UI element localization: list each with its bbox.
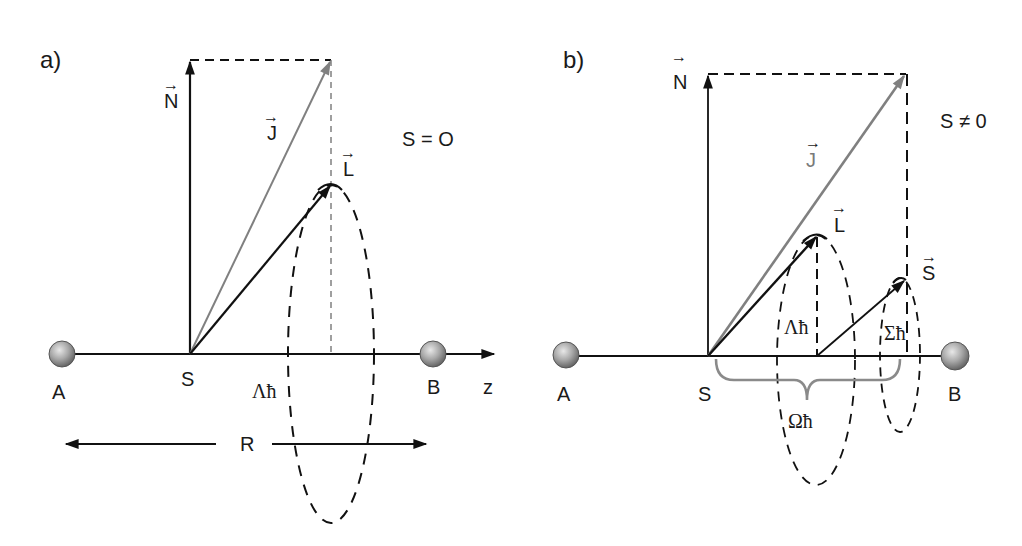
atom-b-right — [420, 341, 446, 367]
panel-b: b) A S B Λħ Σħ Ωħ S ≠ 0 — [553, 46, 987, 485]
omega-hbar-label-b: Ωħ — [788, 410, 813, 432]
j-vector-b — [708, 76, 904, 356]
atom-a-left-b — [553, 342, 579, 368]
panel-b-label: b) — [563, 46, 584, 73]
sigma-hbar-label-b: Σħ — [884, 322, 906, 344]
condition-label-b: S ≠ 0 — [940, 110, 987, 132]
l-vector-label-b: L — [834, 214, 845, 236]
z-axis-label: z — [483, 376, 493, 398]
panel-a: a) A S Λħ B z R S = O → N → J — [40, 46, 494, 523]
atom-b-label-a: B — [427, 376, 440, 398]
condition-label-a: S = O — [402, 128, 454, 150]
n-arrow-glyph-b: → — [671, 48, 687, 65]
atom-a-label-a: A — [52, 381, 66, 403]
omega-brace — [716, 359, 900, 400]
lambda-hbar-label-a: Λħ — [252, 380, 277, 402]
n-vector-label-b: N — [673, 71, 687, 93]
j-vector-a — [190, 62, 330, 354]
lambda-hbar-label-b: Λħ — [784, 316, 809, 338]
atom-b-label-b: B — [948, 383, 961, 405]
r-distance-label: R — [240, 433, 254, 455]
j-vector-label-b: J — [806, 149, 816, 171]
n-vector-label-a: N — [164, 90, 178, 112]
s-vector-b — [817, 281, 904, 356]
panel-a-label: a) — [40, 46, 61, 73]
j-vector-label-a: J — [267, 122, 277, 144]
center-label-a: S — [181, 368, 194, 390]
atom-a-left — [49, 341, 75, 367]
s-vector-label-b: S — [922, 262, 935, 284]
center-label-b: S — [698, 383, 711, 405]
l-vector-label-a: L — [343, 158, 354, 180]
atom-a-label-b: A — [557, 383, 571, 405]
precession-arrow-s-b — [893, 278, 906, 283]
hunds-coupling-diagram: a) A S Λħ B z R S = O → N → J — [0, 0, 1022, 546]
atom-b-right-b — [941, 342, 969, 370]
l-vector-b — [708, 237, 816, 356]
s-precession-cone-b — [880, 278, 920, 432]
